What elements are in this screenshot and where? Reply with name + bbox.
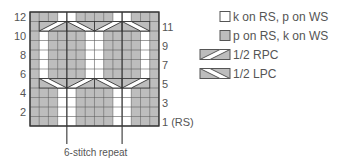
repeat-label: 6-stitch repeat [64,147,127,158]
rpc-cable-icon [188,49,233,61]
legend-label: k on RS, p on WS [233,10,328,24]
purl-square-icon [188,30,233,42]
lpc-cable-icon [188,68,233,80]
row-label-left-6: 6 [20,69,26,80]
legend-label: 1/2 LPC [233,67,276,81]
row-label-left-8: 8 [20,50,26,61]
row-label-left-4: 4 [20,88,26,99]
knit-square-icon [188,11,233,23]
row-label-right-11: 11 [162,22,173,33]
row-label-right-5: 5 [162,79,168,90]
row-label-left-10: 10 [14,31,26,42]
legend-label: 1/2 RPC [233,48,278,62]
row-label-right-7: 7 [162,60,168,71]
row-label-right-1: 1 (RS) [162,117,194,128]
row-label-left-12: 12 [14,12,26,23]
row-label-left-2: 2 [20,107,26,118]
row-label-right-3: 3 [162,98,168,109]
legend-label: p on RS, k on WS [233,29,328,43]
row-label-right-9: 9 [162,41,168,52]
